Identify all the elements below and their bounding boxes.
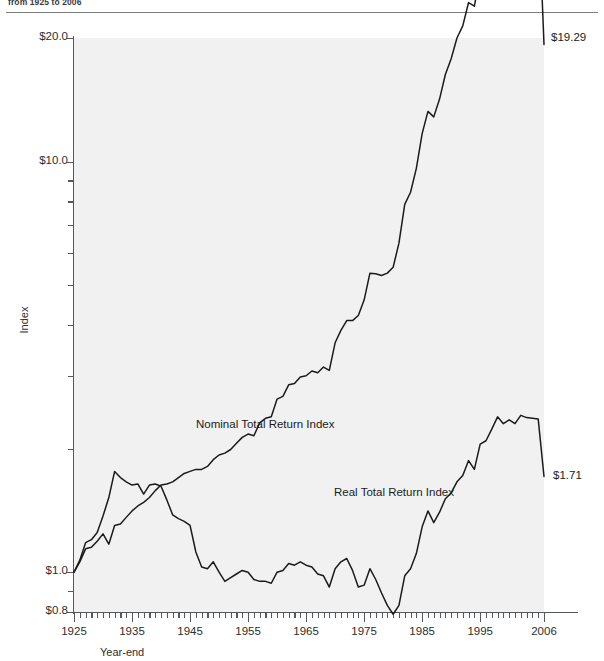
header-divider: [6, 12, 598, 13]
series-label-nominal: Nominal Total Return Index: [196, 418, 335, 430]
series-line-nominal: [74, 0, 544, 572]
nominal-end-value-label: $19.29: [551, 31, 586, 43]
series-label-real: Real Total Return Index: [334, 486, 454, 498]
real-end-value-label: $1.71: [553, 469, 582, 481]
figure-subtitle: from 1925 to 2006: [8, 0, 82, 7]
series-line-real: [74, 415, 544, 614]
plot-lines: [0, 14, 604, 661]
chart-container: Index $20.0$10.0$1.0$0.8 192519351945195…: [0, 14, 604, 661]
